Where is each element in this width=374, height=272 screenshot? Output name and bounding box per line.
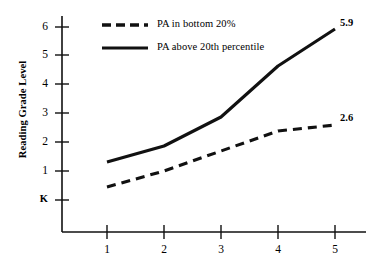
chart-figure: Reading Grade Level 6 5 4 3 2 1 K 1 2 3 … — [0, 0, 374, 272]
y-tick-label-1: 1 — [26, 164, 48, 176]
x-tick-label-5: 5 — [325, 243, 345, 255]
y-tick-label-6: 6 — [26, 20, 48, 32]
x-tick-label-4: 4 — [268, 243, 288, 255]
legend-label-pa-bottom-20: PA in bottom 20% — [157, 18, 236, 29]
y-tick-label-4: 4 — [26, 77, 48, 89]
y-tick-label-5: 5 — [26, 48, 48, 60]
x-tick-label-3: 3 — [211, 243, 231, 255]
x-tick-label-2: 2 — [154, 243, 174, 255]
x-tick-label-1: 1 — [97, 243, 117, 255]
data-label-solid-end: 5.9 — [340, 17, 353, 28]
series-line-pa-bottom-20 — [107, 125, 335, 187]
legend-label-pa-above-20th: PA above 20th percentile — [157, 41, 264, 52]
y-tick-label-3: 3 — [26, 106, 48, 118]
y-tick-label-2: 2 — [26, 135, 48, 147]
y-tick-label-k: K — [26, 193, 48, 204]
data-label-dashed-end: 2.6 — [340, 112, 353, 123]
